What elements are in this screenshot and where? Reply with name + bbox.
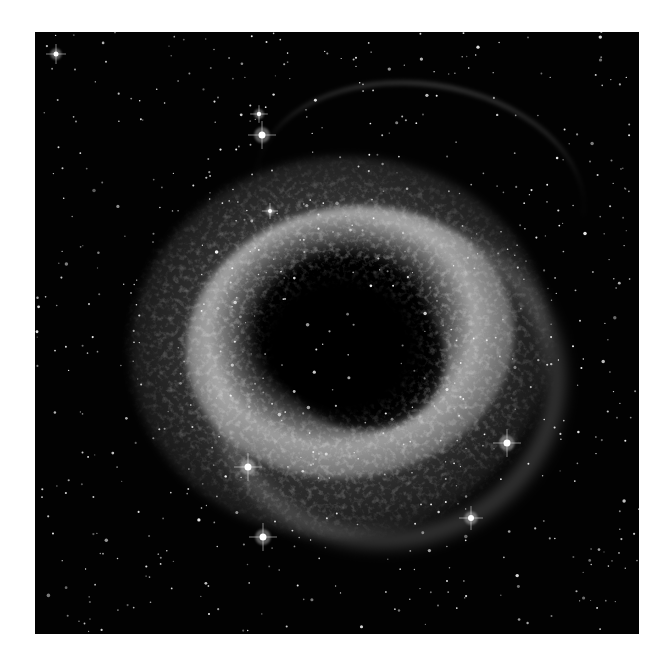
star [173, 173, 174, 174]
star [302, 470, 305, 473]
star [238, 146, 240, 148]
star [381, 134, 383, 136]
star [523, 279, 524, 280]
star [335, 405, 337, 407]
star [92, 336, 94, 338]
star [364, 422, 366, 424]
star [97, 252, 100, 255]
star [618, 282, 621, 285]
star [96, 533, 97, 534]
star [299, 239, 301, 241]
star [152, 437, 154, 439]
star [612, 183, 613, 184]
star [599, 35, 602, 38]
star [284, 411, 286, 413]
star [55, 35, 56, 36]
star [173, 561, 174, 562]
star [597, 174, 599, 176]
star [177, 210, 179, 212]
star [420, 57, 423, 60]
star [310, 464, 312, 466]
star [430, 503, 432, 505]
star [619, 83, 621, 85]
star [101, 181, 103, 183]
star [626, 230, 627, 231]
star [206, 505, 207, 506]
star [53, 173, 54, 174]
star [100, 629, 102, 631]
star [54, 411, 56, 413]
star [136, 304, 138, 306]
star [368, 42, 370, 44]
star [529, 194, 530, 195]
star [310, 539, 311, 540]
star [577, 463, 579, 465]
star [133, 330, 135, 332]
star [456, 485, 457, 486]
star [372, 90, 374, 92]
star [123, 284, 124, 285]
star [82, 345, 84, 347]
star [454, 382, 455, 383]
star [572, 556, 574, 558]
star [445, 478, 447, 480]
star [355, 57, 357, 59]
star [547, 288, 549, 290]
star [611, 560, 613, 562]
star [92, 496, 94, 498]
star [423, 312, 426, 315]
star [525, 260, 526, 261]
star [590, 600, 591, 601]
star [315, 458, 317, 460]
star [180, 373, 182, 375]
star [89, 618, 91, 620]
star [463, 580, 464, 581]
star [609, 371, 611, 373]
star [234, 341, 236, 343]
star [230, 395, 232, 397]
star [599, 58, 602, 61]
star [357, 524, 359, 526]
star [293, 277, 296, 280]
star [554, 538, 556, 540]
star [358, 166, 360, 168]
star [599, 216, 601, 218]
star [475, 54, 476, 55]
star [188, 468, 189, 469]
star [579, 320, 581, 322]
star [242, 351, 243, 352]
nebula-image [35, 32, 639, 634]
star [456, 440, 458, 442]
star [273, 33, 275, 35]
star [370, 51, 371, 52]
star [145, 575, 146, 576]
star [551, 615, 553, 617]
star [73, 34, 75, 36]
star [609, 205, 611, 207]
star [465, 407, 466, 408]
star [318, 557, 320, 559]
star [562, 159, 564, 161]
star [429, 287, 431, 289]
star [298, 537, 299, 538]
star [65, 492, 67, 494]
star [243, 219, 245, 221]
star [436, 95, 438, 97]
star [322, 344, 323, 345]
star [520, 308, 521, 309]
star [493, 72, 494, 73]
star [238, 326, 239, 327]
star [152, 233, 154, 235]
star [420, 503, 422, 505]
star [500, 478, 502, 480]
star [624, 440, 626, 442]
star [268, 565, 270, 567]
star [371, 199, 373, 201]
star [179, 382, 182, 385]
star [601, 439, 603, 441]
star [394, 608, 396, 610]
star [208, 585, 210, 587]
star [398, 156, 400, 158]
star [160, 557, 162, 559]
star [387, 559, 388, 560]
